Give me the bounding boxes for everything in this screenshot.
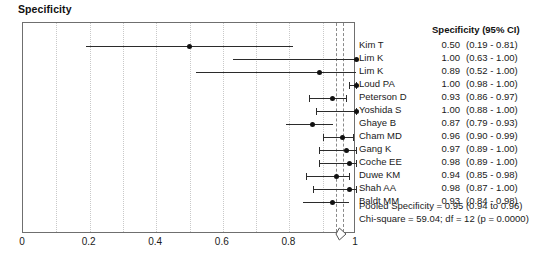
confidence-interval-cap xyxy=(309,95,310,102)
point-estimate-marker xyxy=(354,57,359,62)
page-title: Specificity xyxy=(18,3,72,15)
confidence-interval-cap xyxy=(356,147,357,154)
x-axis-tick-label: 0.4 xyxy=(148,236,162,247)
plot-area xyxy=(22,22,355,233)
study-confidence-interval: (0.90 - 0.99) xyxy=(466,130,518,141)
point-estimate-marker xyxy=(354,83,359,88)
confidence-interval-line xyxy=(303,202,350,203)
point-estimate-marker xyxy=(347,187,352,192)
x-axis: 00.20.40.60.81 xyxy=(22,236,355,252)
study-name: Shah AA xyxy=(359,182,396,193)
confidence-interval-cap xyxy=(316,108,317,115)
confidence-interval-cap xyxy=(306,173,307,180)
study-name: Loud PA xyxy=(359,78,395,89)
study-confidence-interval: (0.86 - 0.97) xyxy=(466,91,518,102)
study-confidence-interval: (0.89 - 1.00) xyxy=(466,143,518,154)
confidence-interval-line xyxy=(309,98,346,99)
study-estimate: 0.98 xyxy=(432,182,460,193)
results-table-header: Specificity (95% CI) xyxy=(432,24,520,35)
point-estimate-marker xyxy=(187,44,192,49)
confidence-interval-cap xyxy=(323,134,324,141)
study-name: Coche EE xyxy=(359,156,402,167)
point-estimate-marker xyxy=(334,174,339,179)
study-name: Lim K xyxy=(359,65,383,76)
study-estimate: 0.97 xyxy=(432,143,460,154)
study-confidence-interval: (0.19 - 0.81) xyxy=(466,39,518,50)
study-name: Ghaye B xyxy=(359,117,396,128)
study-series xyxy=(23,23,354,232)
study-confidence-interval: (0.87 - 1.00) xyxy=(466,182,518,193)
study-confidence-interval: (0.63 - 1.00) xyxy=(466,52,518,63)
confidence-interval-cap xyxy=(353,134,354,141)
point-estimate-marker xyxy=(330,96,335,101)
confidence-interval-line xyxy=(196,72,356,73)
confidence-interval-line xyxy=(316,111,356,112)
study-name: Yoshida S xyxy=(359,104,401,115)
confidence-interval-cap xyxy=(356,160,357,167)
study-confidence-interval: (0.89 - 1.00) xyxy=(466,156,518,167)
x-axis-tick-label: 0.8 xyxy=(281,236,295,247)
study-confidence-interval: (0.88 - 1.00) xyxy=(466,104,518,115)
confidence-interval-cap xyxy=(349,173,350,180)
confidence-interval-line xyxy=(233,59,356,60)
point-estimate-marker xyxy=(330,200,335,205)
point-estimate-marker xyxy=(344,148,349,153)
confidence-interval-cap xyxy=(349,82,350,89)
study-estimate: 0.96 xyxy=(432,130,460,141)
study-confidence-interval: (0.52 - 1.00) xyxy=(466,65,518,76)
x-axis-tick-label: 0.6 xyxy=(215,236,229,247)
point-estimate-marker xyxy=(317,70,322,75)
confidence-interval-line xyxy=(323,137,353,138)
summary-statistics: Pooled Specificity = 0.95 (0.94 to 0.96)… xyxy=(359,200,529,225)
x-axis-tick-label: 0 xyxy=(19,236,25,247)
point-estimate-marker xyxy=(354,109,359,114)
pooled-specificity-text: Pooled Specificity = 0.95 (0.94 to 0.96) xyxy=(359,200,529,213)
point-estimate-marker xyxy=(310,122,315,127)
forest-plot-page: Specificity 00.20.40.60.81 Specificity (… xyxy=(0,0,551,265)
confidence-interval-cap xyxy=(319,160,320,167)
heterogeneity-text: Chi-square = 59.04; df = 12 (p = 0.0000) xyxy=(359,213,529,226)
study-estimate: 0.93 xyxy=(432,91,460,102)
study-name: Cham MD xyxy=(359,130,402,141)
confidence-interval-line xyxy=(319,150,356,151)
point-estimate-marker xyxy=(347,161,352,166)
confidence-interval-line xyxy=(306,176,349,177)
study-estimate: 1.00 xyxy=(432,78,460,89)
x-axis-tick-label: 1 xyxy=(352,236,358,247)
study-estimate: 0.87 xyxy=(432,117,460,128)
confidence-interval-cap xyxy=(356,186,357,193)
study-estimate: 0.50 xyxy=(432,39,460,50)
point-estimate-marker xyxy=(340,135,345,140)
confidence-interval-cap xyxy=(319,147,320,154)
x-axis-tick-label: 0.2 xyxy=(82,236,96,247)
study-estimate: 0.98 xyxy=(432,156,460,167)
study-name: Peterson D xyxy=(359,91,407,102)
study-confidence-interval: (0.79 - 0.93) xyxy=(466,117,518,128)
study-estimate: 1.00 xyxy=(432,52,460,63)
study-name: Gang K xyxy=(359,143,391,154)
confidence-interval-cap xyxy=(346,95,347,102)
study-name: Kim T xyxy=(359,39,384,50)
study-confidence-interval: (0.98 - 1.00) xyxy=(466,78,518,89)
study-estimate: 0.94 xyxy=(432,169,460,180)
study-name: Duwe KM xyxy=(359,169,400,180)
study-name: Lim K xyxy=(359,52,383,63)
confidence-interval-cap xyxy=(313,186,314,193)
study-estimate: 0.89 xyxy=(432,65,460,76)
study-confidence-interval: (0.85 - 0.98) xyxy=(466,169,518,180)
study-estimate: 1.00 xyxy=(432,104,460,115)
